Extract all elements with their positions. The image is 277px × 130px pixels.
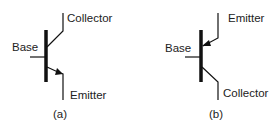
npn-transistor-symbol	[30, 13, 63, 100]
collector-lead	[47, 13, 63, 47]
label-a-emitter: Emitter	[70, 90, 106, 102]
emitter-lead	[203, 13, 218, 46]
transistor-symbols-diagram: Collector Base Emitter (a) Emitter Base …	[0, 0, 277, 130]
collector-lead	[202, 67, 218, 100]
label-b-collector: Collector	[223, 88, 268, 100]
label-a-collector: Collector	[67, 13, 112, 25]
caption-a: (a)	[53, 109, 67, 121]
label-b-base: Base	[165, 43, 191, 55]
label-b-emitter: Emitter	[228, 13, 264, 25]
emitter-arrow-icon	[202, 40, 211, 46]
pnp-transistor-symbol	[185, 13, 218, 100]
caption-b: (b)	[209, 109, 223, 121]
label-a-base: Base	[12, 42, 38, 54]
emitter-arrow-icon	[55, 68, 63, 75]
